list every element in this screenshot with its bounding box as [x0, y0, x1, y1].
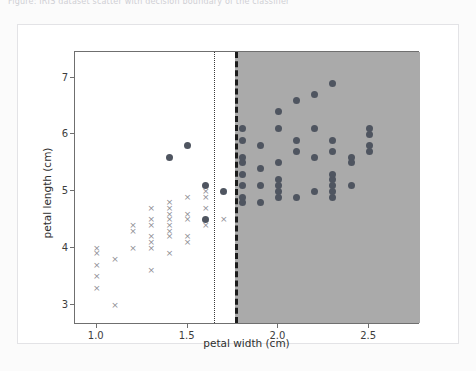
data-point-virginica: [239, 199, 246, 206]
data-point-virginica: [239, 182, 246, 189]
data-point-virginica: [184, 142, 191, 149]
cut-off-header-text: Figure: IRIS dataset scatter with decisi…: [8, 0, 468, 7]
data-point-versicolor: [183, 238, 192, 247]
data-point-virginica: [329, 137, 336, 144]
data-point-versicolor: [219, 215, 228, 224]
data-point-versicolor: [147, 204, 156, 213]
data-point-versicolor: [165, 232, 174, 241]
y-tick-label: 5: [44, 185, 68, 196]
y-tick-label: 4: [44, 242, 68, 253]
data-point-versicolor: [147, 238, 156, 247]
data-point-virginica: [275, 188, 282, 195]
y-tick-mark: [70, 190, 74, 191]
data-point-virginica: [293, 148, 300, 155]
data-point-versicolor: [147, 266, 156, 275]
data-point-versicolor: [183, 210, 192, 219]
data-point-virginica: [166, 154, 173, 161]
data-point-virginica: [366, 131, 373, 138]
y-tick-label: 3: [44, 299, 68, 310]
data-point-versicolor: [201, 193, 210, 202]
data-point-versicolor: [201, 204, 210, 213]
data-point-versicolor: [92, 272, 101, 281]
data-point-versicolor: [183, 193, 192, 202]
data-point-versicolor: [92, 249, 101, 258]
x-tick-label: 2.5: [360, 330, 376, 341]
data-point-versicolor: [165, 198, 174, 207]
x-tick-label: 2.0: [269, 330, 285, 341]
data-point-versicolor: [129, 227, 138, 236]
y-tick-label: 6: [44, 128, 68, 139]
data-point-virginica: [311, 154, 318, 161]
x-tick-mark: [187, 324, 188, 328]
decision-boundary-dotted: [214, 52, 215, 323]
x-tick-mark: [368, 324, 369, 328]
x-tick-label: 1.5: [179, 330, 195, 341]
data-point-virginica: [293, 137, 300, 144]
data-point-virginica: [348, 159, 355, 166]
data-point-versicolor: [165, 249, 174, 258]
y-tick-mark: [70, 247, 74, 248]
data-point-virginica: [239, 137, 246, 144]
y-tick-mark: [70, 133, 74, 134]
x-tick-label: 1.0: [88, 330, 104, 341]
data-point-virginica: [257, 199, 264, 206]
plot-axes: [74, 51, 419, 324]
data-point-virginica: [348, 182, 355, 189]
data-point-versicolor: [110, 301, 119, 310]
data-point-virginica: [257, 182, 264, 189]
data-point-virginica: [293, 97, 300, 104]
screenshot-root: Figure: IRIS dataset scatter with decisi…: [0, 0, 476, 371]
data-point-virginica: [239, 125, 246, 132]
y-tick-label: 7: [44, 71, 68, 82]
data-point-virginica: [366, 125, 373, 132]
data-point-virginica: [257, 165, 264, 172]
data-point-virginica: [239, 154, 246, 161]
data-point-versicolor: [92, 261, 101, 270]
data-point-versicolor: [92, 284, 101, 293]
x-tick-mark: [96, 324, 97, 328]
matplotlib-figure: petal width (cm) petal length (cm) 1.01.…: [18, 25, 460, 345]
data-point-versicolor: [110, 255, 119, 264]
data-point-virginica: [311, 188, 318, 195]
x-tick-mark: [277, 324, 278, 328]
data-point-virginica: [293, 194, 300, 201]
y-tick-mark: [70, 77, 74, 78]
data-point-versicolor: [129, 244, 138, 253]
data-point-versicolor: [147, 215, 156, 224]
y-tick-mark: [70, 304, 74, 305]
figure-card: petal width (cm) petal length (cm) 1.01.…: [17, 24, 459, 344]
data-point-virginica: [366, 148, 373, 155]
data-point-virginica: [329, 194, 336, 201]
data-point-virginica: [239, 171, 246, 178]
